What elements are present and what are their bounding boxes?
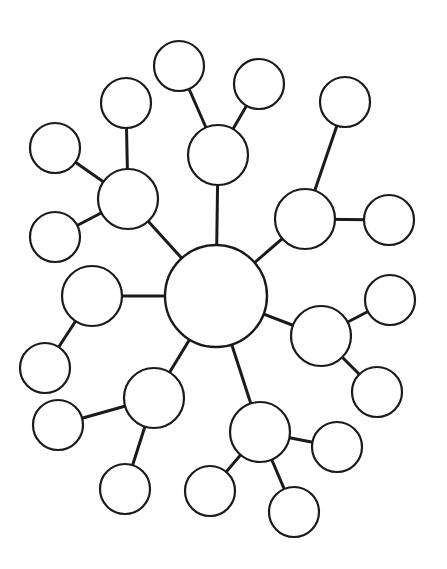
leaf-bubble-leaf-top-left-3-shape bbox=[101, 78, 151, 128]
leaf-bubble-leaf-left-1 bbox=[20, 343, 70, 393]
leaf-bubble-leaf-bottom-left-1-shape bbox=[33, 400, 83, 450]
leaf-bubble-leaf-right-1 bbox=[365, 275, 415, 325]
leaf-bubble-leaf-top-right-2-shape bbox=[364, 195, 414, 245]
leaf-bubble-leaf-top-right-2 bbox=[364, 195, 414, 245]
central-bubble bbox=[165, 245, 267, 347]
leaf-bubble-leaf-top-2-shape bbox=[234, 59, 284, 109]
leaf-bubble-leaf-bottom-right-1 bbox=[312, 422, 362, 472]
central-bubble-shape bbox=[165, 245, 267, 347]
branch-bubble-hub-bottom-left-shape bbox=[124, 368, 184, 428]
branch-bubble-hub-top-left-shape bbox=[98, 169, 158, 229]
leaf-bubble-leaf-bottom-right-1-shape bbox=[312, 422, 362, 472]
branch-bubble-hub-bottom-right bbox=[230, 402, 290, 462]
leaf-bubble-leaf-right-2-shape bbox=[352, 367, 402, 417]
leaf-bubble-leaf-top-1 bbox=[154, 41, 204, 91]
leaf-bubble-leaf-bottom-right-2-shape bbox=[269, 487, 319, 537]
leaf-bubble-leaf-bottom-left-1 bbox=[33, 400, 83, 450]
branch-bubble-hub-bottom-left bbox=[124, 368, 184, 428]
leaf-bubble-leaf-top-left-1-shape bbox=[30, 123, 80, 173]
branch-bubble-hub-left-shape bbox=[62, 266, 122, 326]
leaf-bubble-leaf-bottom-left-2 bbox=[100, 464, 150, 514]
leaf-bubble-leaf-bottom-left-2-shape bbox=[100, 464, 150, 514]
leaf-bubble-leaf-bottom-right-3-shape bbox=[185, 466, 235, 516]
branch-bubble-hub-top-left bbox=[98, 169, 158, 229]
leaf-bubble-leaf-bottom-right-3 bbox=[185, 466, 235, 516]
branch-bubble-hub-bottom-right-shape bbox=[230, 402, 290, 462]
branch-bubble-hub-top-right bbox=[275, 189, 335, 249]
leaf-bubble-leaf-right-2 bbox=[352, 367, 402, 417]
branch-bubble-hub-top-shape bbox=[188, 125, 248, 185]
leaf-bubble-leaf-top-left-2-shape bbox=[30, 212, 80, 262]
leaf-bubble-leaf-top-right-1 bbox=[320, 77, 370, 127]
branch-bubble-hub-left bbox=[62, 266, 122, 326]
leaf-bubble-leaf-top-left-1 bbox=[30, 123, 80, 173]
leaf-bubble-leaf-top-right-1-shape bbox=[320, 77, 370, 127]
bubble-map-diagram bbox=[0, 0, 447, 569]
leaf-bubble-leaf-bottom-right-2 bbox=[269, 487, 319, 537]
leaf-bubble-leaf-top-2 bbox=[234, 59, 284, 109]
branch-bubble-hub-right bbox=[291, 306, 351, 366]
bubble-nodes bbox=[20, 41, 415, 537]
leaf-bubble-leaf-top-1-shape bbox=[154, 41, 204, 91]
branch-bubble-hub-right-shape bbox=[291, 306, 351, 366]
leaf-bubble-leaf-right-1-shape bbox=[365, 275, 415, 325]
leaf-bubble-leaf-top-left-2 bbox=[30, 212, 80, 262]
branch-bubble-hub-top-right-shape bbox=[275, 189, 335, 249]
branch-bubble-hub-top bbox=[188, 125, 248, 185]
leaf-bubble-leaf-left-1-shape bbox=[20, 343, 70, 393]
leaf-bubble-leaf-top-left-3 bbox=[101, 78, 151, 128]
bubble-map-canvas bbox=[0, 0, 447, 569]
